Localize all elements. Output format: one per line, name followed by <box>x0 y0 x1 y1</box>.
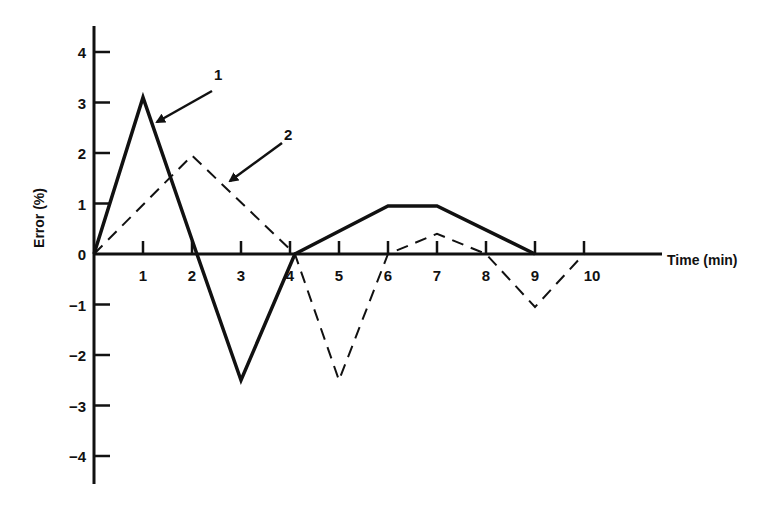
series-2-arrow <box>230 143 282 181</box>
y-tick-label: 0 <box>78 246 86 263</box>
error-vs-time-chart: 43210−1−2−3−4 12345678910 Time (min) Err… <box>0 0 783 511</box>
y-tick-label: 2 <box>78 145 86 162</box>
x-tick-label: 5 <box>335 267 343 284</box>
x-tick-label: 2 <box>188 267 196 284</box>
x-tick-label: 9 <box>531 267 539 284</box>
y-tick-label: 4 <box>78 44 87 61</box>
series-1-label: 1 <box>214 66 222 83</box>
y-tick-label: 3 <box>78 95 86 112</box>
x-tick-label: 8 <box>482 267 490 284</box>
series-2-label: 2 <box>284 126 292 143</box>
series-1-line <box>94 97 535 380</box>
y-axis-title: Error (%) <box>31 188 47 248</box>
x-axis-title: Time (min) <box>667 252 738 268</box>
y-tick-label: −1 <box>69 297 86 314</box>
y-tick-label: −3 <box>69 398 86 415</box>
series-group <box>94 97 584 380</box>
x-tick-label: 7 <box>433 267 441 284</box>
y-tick-label: −2 <box>69 347 86 364</box>
series-1-arrow <box>157 91 212 122</box>
x-tick-label: 6 <box>384 267 392 284</box>
x-tick-label: 10 <box>584 267 601 284</box>
x-tick-label: 1 <box>139 267 147 284</box>
y-tick-label: −4 <box>69 448 87 465</box>
y-tick-label: 1 <box>78 196 86 213</box>
x-tick-label: 3 <box>237 267 245 284</box>
annotations <box>157 91 282 181</box>
